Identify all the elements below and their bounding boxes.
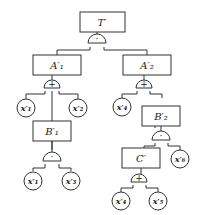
label-b1x1: x′₁ <box>27 176 38 186</box>
label-a1x2: x′₂ <box>72 103 84 113</box>
label-a2x4: x′₄ <box>116 102 128 112</box>
gate-symbol-B1: · <box>51 152 54 162</box>
label-cx4: x′₄ <box>115 196 127 206</box>
gate-symbol-T: · <box>96 34 99 44</box>
label-A2: A′₂ <box>139 60 154 71</box>
fault-tree-diagram: T′ A′₁ A′₂ B′₁ B′₂ C′ · + + · · + x′₁ x′… <box>0 0 202 215</box>
label-b1x3: x′₃ <box>65 176 77 186</box>
label-a1x1: x′₁ <box>20 103 31 113</box>
gate-symbol-C: + <box>135 173 143 183</box>
gate-symbol-B2: · <box>160 131 163 141</box>
label-B1: B′₁ <box>44 126 59 137</box>
gate-symbol-A2: + <box>140 79 148 89</box>
label-cx5: x′₅ <box>152 196 164 206</box>
label-b2x6: x′₆ <box>174 154 186 164</box>
label-T: T′ <box>98 17 108 28</box>
label-A1: A′₁ <box>49 60 64 71</box>
gate-symbol-A1: + <box>48 79 56 89</box>
label-B2: B′₂ <box>153 111 168 122</box>
label-C: C′ <box>136 153 147 164</box>
